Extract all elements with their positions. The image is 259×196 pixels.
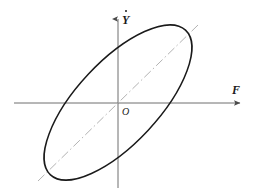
x-axis-label: F (232, 84, 240, 96)
axes-group (14, 19, 240, 188)
y-axis-label-text: Y (122, 13, 129, 27)
y-axis-label: Y (122, 14, 129, 26)
origin-label: O (122, 107, 129, 117)
overdot-accent-icon (125, 10, 127, 12)
figure-container: F Y O (0, 0, 259, 196)
diagram-canvas (0, 0, 259, 196)
